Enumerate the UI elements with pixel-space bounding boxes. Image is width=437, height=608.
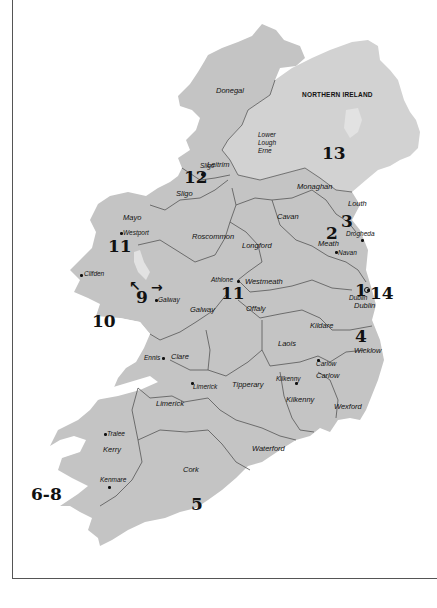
- town-dot-icon: [108, 486, 111, 489]
- town-dot-icon: [361, 239, 364, 242]
- county-label-longford: Longford: [242, 242, 272, 250]
- location-number-14: 14: [370, 285, 394, 302]
- arrow-up-left-icon: ↖: [129, 279, 141, 293]
- town-label-tralee: Tralee: [107, 431, 125, 438]
- town-label-kenmare: Kenmare: [100, 477, 126, 484]
- county-label-kilkenny: Kilkenny: [286, 396, 314, 404]
- arrow-right-icon: →: [151, 280, 163, 294]
- location-number-4: 4: [355, 328, 367, 345]
- county-label-galway: Galway: [190, 306, 215, 314]
- county-label-offaly: Offaly: [246, 305, 266, 313]
- town-dot-icon: [162, 357, 165, 360]
- county-label-donegal: Donegal: [216, 87, 244, 95]
- county-label-mayo: Mayo: [123, 214, 141, 222]
- county-label-cavan: Cavan: [277, 213, 299, 221]
- location-number-2: 2: [326, 225, 338, 242]
- location-number-13: 13: [322, 145, 346, 162]
- town-label-drogheda: Drogheda: [346, 231, 375, 238]
- county-label-cork: Cork: [183, 466, 199, 474]
- town-label-galway: Galway: [158, 297, 180, 304]
- location-number-6-8: 6-8: [31, 486, 62, 503]
- location-number-1: 1: [355, 282, 367, 299]
- county-label-kerry: Kerry: [103, 446, 121, 454]
- location-number-12: 12: [184, 169, 208, 186]
- town-label-clifden: Clifden: [84, 271, 104, 278]
- location-number-11: 11: [221, 285, 245, 302]
- county-label-limerick: Limerick: [156, 400, 184, 408]
- county-label-tipperary: Tipperary: [232, 381, 264, 389]
- town-label-kilkenny: Kilkenny: [276, 376, 301, 383]
- town-dot-icon: [80, 274, 83, 277]
- location-number-5: 5: [191, 496, 203, 513]
- county-label-wicklow: Wicklow: [354, 347, 381, 355]
- location-number-11: 11: [108, 238, 132, 255]
- lake-label-lower-lough-erne: Erne: [258, 148, 272, 155]
- county-label-laois: Laois: [278, 340, 296, 348]
- town-label-limerick: Limerick: [193, 384, 217, 391]
- region-label-northern-ireland: NORTHERN IRELAND: [302, 92, 373, 99]
- county-label-wexford: Wexford: [334, 403, 362, 411]
- location-number-3: 3: [341, 213, 353, 230]
- county-label-westmeath: Westmeath: [245, 278, 283, 286]
- town-label-navan: Navan: [338, 250, 357, 257]
- county-label-louth: Louth: [348, 200, 367, 208]
- location-number-10: 10: [92, 313, 116, 330]
- county-label-roscommon: Roscommon: [192, 233, 234, 241]
- lake-label-lower-lough-erne: Lower: [258, 132, 276, 139]
- county-label-sligo: Sligo: [176, 190, 193, 198]
- county-label-carlow: Carlow: [316, 372, 339, 380]
- county-label-clare: Clare: [171, 353, 189, 361]
- town-label-ennis: Ennis: [144, 355, 160, 362]
- lake-label-lower-lough-erne: Lough: [258, 140, 276, 147]
- county-label-kildare: Kildare: [310, 322, 333, 330]
- county-label-monaghan: Monaghan: [297, 183, 332, 191]
- town-label-carlow: Carlow: [316, 361, 336, 368]
- county-label-dublin: Dublin: [354, 302, 375, 310]
- county-label-waterford: Waterford: [252, 445, 285, 453]
